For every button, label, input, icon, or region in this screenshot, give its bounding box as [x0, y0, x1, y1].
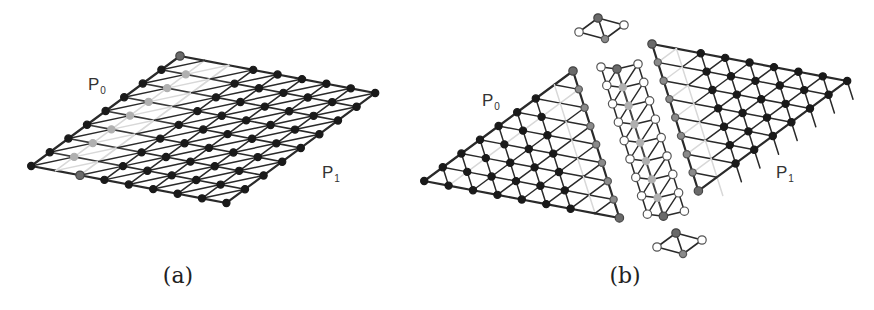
mesh-edge: [682, 67, 688, 85]
mesh-node: [672, 229, 680, 237]
mesh-node: [518, 196, 525, 203]
mesh-node: [46, 149, 53, 156]
mesh-node: [703, 68, 710, 75]
mesh-node: [144, 167, 151, 174]
mesh-node: [298, 76, 305, 83]
mesh-node: [620, 136, 628, 144]
mesh-node: [660, 77, 667, 84]
mesh-node: [279, 158, 286, 165]
mesh-node: [709, 86, 716, 93]
mesh-node: [469, 187, 476, 194]
mesh-node: [119, 163, 126, 170]
mesh-node: [139, 80, 146, 87]
mesh-node: [241, 186, 248, 193]
mesh-node: [689, 169, 696, 176]
mesh-node: [458, 150, 465, 157]
mesh-node: [782, 100, 789, 107]
mesh-node: [680, 207, 688, 215]
mesh-node: [732, 160, 739, 167]
mesh-node: [121, 94, 128, 101]
mesh-node: [598, 159, 605, 166]
mesh-node: [619, 84, 626, 91]
mesh-node: [439, 164, 446, 171]
mesh-node: [217, 181, 224, 188]
mesh-node: [597, 63, 605, 71]
mesh-node: [752, 77, 759, 84]
mesh-edge: [717, 177, 723, 195]
mesh-node: [722, 54, 729, 61]
mesh-node: [353, 103, 360, 110]
mesh-node: [648, 40, 656, 48]
mesh-node: [651, 115, 659, 123]
mesh-node: [758, 96, 765, 103]
region-label-subscript: 1: [334, 173, 340, 184]
mesh-node: [421, 177, 428, 184]
mesh-node: [654, 194, 661, 201]
mesh-node: [286, 108, 293, 115]
mesh-node: [231, 80, 238, 87]
mesh-node: [174, 190, 181, 197]
mesh-node: [683, 151, 690, 158]
mesh-node: [101, 176, 108, 183]
mesh-node: [614, 118, 622, 126]
mesh-node: [715, 105, 722, 112]
mesh-node: [631, 121, 638, 128]
mesh-node: [255, 85, 262, 92]
mesh-node: [150, 186, 157, 193]
mesh-edge: [566, 121, 572, 139]
mesh-node: [550, 150, 557, 157]
mesh-node: [291, 126, 298, 133]
region-label-subscript: 1: [788, 173, 794, 184]
mesh-edge: [711, 159, 717, 177]
mesh-partition-figure: P0P1P0P1 (a) (b): [0, 0, 874, 310]
mesh-edge: [676, 49, 682, 67]
mesh-node: [739, 109, 746, 116]
mesh-node: [519, 127, 526, 134]
mesh-node: [745, 128, 752, 135]
mesh-node: [194, 108, 201, 115]
mesh-node: [746, 59, 753, 66]
mesh-node: [175, 121, 182, 128]
mesh-node: [544, 132, 551, 139]
mesh-node: [666, 96, 673, 103]
mesh-node: [138, 149, 145, 156]
mesh-node: [488, 173, 495, 180]
mesh-node: [501, 141, 508, 148]
mesh-node: [158, 66, 165, 73]
mesh-node: [157, 135, 164, 142]
mesh-edge: [705, 140, 711, 158]
mesh-edge: [578, 158, 584, 176]
mesh-node: [669, 170, 677, 178]
mesh-node: [575, 28, 583, 36]
mesh-node: [125, 181, 132, 188]
mesh-node: [187, 158, 194, 165]
panel-a-mesh: [28, 52, 379, 207]
mesh-node: [770, 64, 777, 71]
mesh-node: [659, 212, 667, 220]
mesh-node: [347, 85, 354, 92]
mesh-node: [164, 85, 171, 92]
mesh-edge: [583, 177, 589, 195]
mesh-node: [679, 250, 686, 257]
mesh-node: [825, 91, 832, 98]
region-label-p1: P1: [776, 163, 794, 184]
mesh-node: [65, 135, 72, 142]
mesh-node: [260, 172, 267, 179]
mesh-node: [648, 176, 655, 183]
mesh-node: [176, 52, 184, 60]
mesh-node: [567, 205, 574, 212]
mesh-node: [261, 103, 268, 110]
panel-b-mesh: [421, 14, 853, 258]
mesh-node: [801, 86, 808, 93]
mesh-node: [620, 21, 628, 29]
mesh-edge: [694, 104, 700, 122]
mesh-node: [248, 135, 255, 142]
mesh-node: [694, 187, 702, 195]
mesh-node: [615, 214, 623, 222]
region-label-p1: P1: [322, 163, 340, 184]
mesh-node: [608, 100, 616, 108]
mesh-node: [587, 123, 594, 130]
mesh-node: [198, 195, 205, 202]
mesh-node: [601, 35, 608, 42]
mesh-node: [634, 60, 642, 68]
